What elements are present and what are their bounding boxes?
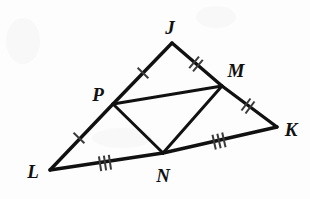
vertex-label-n: N [156, 166, 170, 185]
tick-mark [104, 156, 106, 171]
vertex-label-j: J [165, 18, 175, 37]
segment-pl [50, 104, 113, 170]
vertex-label-p: P [92, 85, 104, 104]
segment-pn [113, 104, 163, 153]
tick-mark [109, 155, 111, 170]
vertex-label-m: M [228, 61, 245, 80]
tick-mark [99, 156, 101, 171]
segment-nk [163, 127, 277, 153]
geometry-figure: JMKNLP [0, 0, 310, 199]
vertex-label-k: K [285, 120, 298, 139]
vertex-label-l: L [27, 162, 39, 181]
segment-jm [172, 43, 222, 86]
diagram-canvas [0, 0, 310, 199]
tick-group-nk [212, 133, 225, 150]
tick-group-ln [99, 155, 111, 171]
